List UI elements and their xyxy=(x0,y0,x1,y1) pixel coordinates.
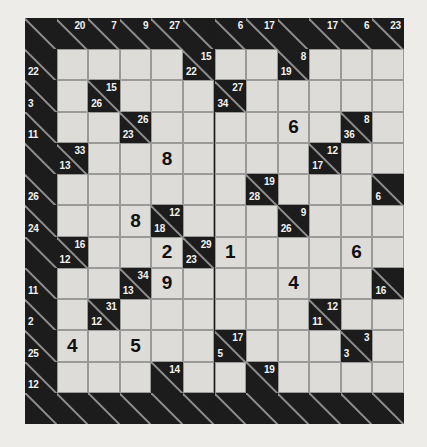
filled-cell[interactable]: 9 xyxy=(151,268,183,299)
empty-cell[interactable] xyxy=(372,80,404,111)
empty-cell[interactable] xyxy=(278,174,310,205)
empty-cell[interactable] xyxy=(120,237,152,268)
filled-cell[interactable]: 4 xyxy=(278,268,310,299)
empty-cell[interactable] xyxy=(309,205,341,236)
empty-cell[interactable] xyxy=(57,299,89,330)
empty-cell[interactable] xyxy=(88,237,120,268)
empty-cell[interactable] xyxy=(215,174,247,205)
empty-cell[interactable] xyxy=(183,80,215,111)
empty-cell[interactable] xyxy=(183,268,215,299)
empty-cell[interactable] xyxy=(183,143,215,174)
empty-cell[interactable] xyxy=(246,299,278,330)
empty-cell[interactable] xyxy=(151,49,183,80)
empty-cell[interactable] xyxy=(341,174,373,205)
empty-cell[interactable] xyxy=(57,112,89,143)
filled-cell[interactable]: 6 xyxy=(278,112,310,143)
empty-cell[interactable] xyxy=(183,205,215,236)
empty-cell[interactable] xyxy=(151,174,183,205)
empty-cell[interactable] xyxy=(246,112,278,143)
empty-cell[interactable] xyxy=(57,49,89,80)
empty-cell[interactable] xyxy=(341,80,373,111)
empty-cell[interactable] xyxy=(278,237,310,268)
empty-cell[interactable] xyxy=(183,112,215,143)
empty-cell[interactable] xyxy=(341,362,373,393)
empty-cell[interactable] xyxy=(246,80,278,111)
empty-cell[interactable] xyxy=(341,268,373,299)
empty-cell[interactable] xyxy=(341,205,373,236)
empty-cell[interactable] xyxy=(246,268,278,299)
empty-cell[interactable] xyxy=(151,112,183,143)
empty-cell[interactable] xyxy=(120,49,152,80)
filled-cell[interactable]: 8 xyxy=(120,205,152,236)
filled-cell[interactable]: 4 xyxy=(57,330,89,361)
empty-cell[interactable] xyxy=(151,80,183,111)
empty-cell[interactable] xyxy=(88,362,120,393)
empty-cell[interactable] xyxy=(246,237,278,268)
empty-cell[interactable] xyxy=(372,205,404,236)
empty-cell[interactable] xyxy=(88,143,120,174)
empty-cell[interactable] xyxy=(88,205,120,236)
empty-cell[interactable] xyxy=(120,174,152,205)
empty-cell[interactable] xyxy=(309,330,341,361)
empty-cell[interactable] xyxy=(120,362,152,393)
empty-cell[interactable] xyxy=(215,362,247,393)
empty-cell[interactable] xyxy=(151,330,183,361)
empty-cell[interactable] xyxy=(278,330,310,361)
filled-cell[interactable]: 8 xyxy=(151,143,183,174)
empty-cell[interactable] xyxy=(246,49,278,80)
empty-cell[interactable] xyxy=(215,205,247,236)
empty-cell[interactable] xyxy=(372,299,404,330)
empty-cell[interactable] xyxy=(309,49,341,80)
empty-cell[interactable] xyxy=(341,49,373,80)
filled-cell[interactable]: 5 xyxy=(120,330,152,361)
empty-cell[interactable] xyxy=(88,49,120,80)
empty-cell[interactable] xyxy=(57,80,89,111)
empty-cell[interactable] xyxy=(88,268,120,299)
empty-cell[interactable] xyxy=(183,330,215,361)
empty-cell[interactable] xyxy=(183,362,215,393)
empty-cell[interactable] xyxy=(309,80,341,111)
empty-cell[interactable] xyxy=(341,299,373,330)
empty-cell[interactable] xyxy=(372,143,404,174)
empty-cell[interactable] xyxy=(278,299,310,330)
filled-cell[interactable]: 6 xyxy=(341,237,373,268)
empty-cell[interactable] xyxy=(120,299,152,330)
filled-cell[interactable]: 1 xyxy=(215,237,247,268)
empty-cell[interactable] xyxy=(278,80,310,111)
kakuro-grid[interactable]: 2079276171762322152281931526273411262368… xyxy=(25,18,404,424)
empty-cell[interactable] xyxy=(120,143,152,174)
empty-cell[interactable] xyxy=(372,112,404,143)
empty-cell[interactable] xyxy=(309,268,341,299)
empty-cell[interactable] xyxy=(183,299,215,330)
empty-cell[interactable] xyxy=(246,143,278,174)
empty-cell[interactable] xyxy=(88,330,120,361)
empty-cell[interactable] xyxy=(120,80,152,111)
empty-cell[interactable] xyxy=(215,268,247,299)
empty-cell[interactable] xyxy=(57,362,89,393)
empty-cell[interactable] xyxy=(309,237,341,268)
empty-cell[interactable] xyxy=(372,49,404,80)
empty-cell[interactable] xyxy=(372,330,404,361)
empty-cell[interactable] xyxy=(151,299,183,330)
empty-cell[interactable] xyxy=(278,143,310,174)
empty-cell[interactable] xyxy=(88,112,120,143)
empty-cell[interactable] xyxy=(246,205,278,236)
empty-cell[interactable] xyxy=(309,362,341,393)
empty-cell[interactable] xyxy=(309,112,341,143)
empty-cell[interactable] xyxy=(183,174,215,205)
empty-cell[interactable] xyxy=(88,174,120,205)
empty-cell[interactable] xyxy=(57,174,89,205)
empty-cell[interactable] xyxy=(278,362,310,393)
empty-cell[interactable] xyxy=(246,330,278,361)
empty-cell[interactable] xyxy=(57,268,89,299)
empty-cell[interactable] xyxy=(309,174,341,205)
filled-cell[interactable]: 2 xyxy=(151,237,183,268)
empty-cell[interactable] xyxy=(215,49,247,80)
empty-cell[interactable] xyxy=(57,205,89,236)
empty-cell[interactable] xyxy=(372,237,404,268)
empty-cell[interactable] xyxy=(215,299,247,330)
empty-cell[interactable] xyxy=(341,143,373,174)
empty-cell[interactable] xyxy=(215,112,247,143)
empty-cell[interactable] xyxy=(372,362,404,393)
empty-cell[interactable] xyxy=(215,143,247,174)
